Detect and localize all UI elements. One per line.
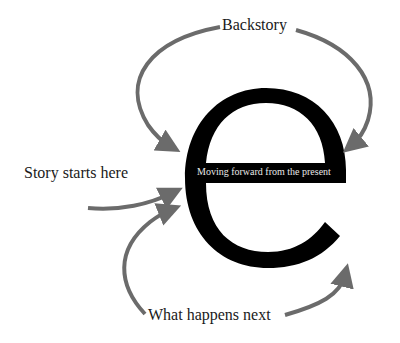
label-backstory: Backstory	[222, 16, 287, 34]
arrow-next-left	[124, 210, 170, 314]
label-what-happens-next: What happens next	[148, 306, 271, 324]
arrow-next-right	[285, 275, 345, 315]
label-story-starts-here: Story starts here	[24, 164, 128, 182]
letter-e-shape	[185, 88, 346, 268]
crossbar-label: Moving forward from the present	[197, 166, 331, 177]
arrow-story-starts	[88, 193, 172, 209]
